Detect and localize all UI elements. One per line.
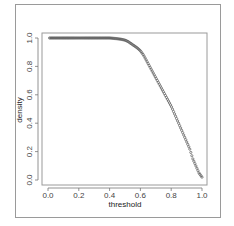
data-point	[190, 151, 192, 153]
data-point	[185, 139, 187, 141]
data-point	[187, 143, 189, 145]
x-axis: 0.00.20.40.60.81.0	[42, 188, 208, 200]
data-point	[188, 146, 190, 148]
x-tick-label: 0.8	[166, 191, 178, 200]
data-point	[183, 134, 185, 136]
data-point	[177, 120, 179, 122]
y-axis-label: density	[15, 97, 24, 122]
y-tick-label: 0.2	[25, 145, 34, 157]
data-point	[201, 176, 203, 178]
x-tick-label: 0.2	[73, 191, 85, 200]
data-point	[191, 155, 193, 157]
y-tick-label: 1.0	[25, 32, 34, 44]
y-tick-label: 0.8	[25, 60, 34, 72]
data-point	[181, 129, 183, 131]
x-axis-label: threshold	[109, 200, 142, 209]
data-point	[180, 127, 182, 129]
y-tick-label: 0.4	[25, 117, 34, 129]
data-point	[173, 113, 175, 115]
data-point	[175, 117, 177, 119]
plot-area	[42, 33, 207, 185]
data-point	[171, 108, 173, 110]
data-point	[184, 136, 186, 138]
data-point	[179, 125, 181, 127]
data-point	[170, 106, 172, 108]
data-point	[195, 165, 197, 167]
x-tick-label: 0.0	[42, 191, 54, 200]
data-point	[172, 110, 174, 112]
data-point	[197, 170, 199, 172]
x-tick-label: 0.6	[135, 191, 147, 200]
data-point	[194, 162, 196, 164]
data-points	[48, 37, 203, 178]
x-tick-label: 0.4	[104, 191, 116, 200]
data-point	[174, 115, 176, 117]
data-point	[186, 141, 188, 143]
data-point	[178, 122, 180, 124]
data-point	[192, 158, 194, 160]
density-threshold-chart: 0.00.20.40.60.81.0 0.00.20.40.60.81.0 th…	[0, 0, 234, 226]
data-point	[189, 148, 191, 150]
data-point	[196, 167, 198, 169]
y-axis: 0.00.20.40.60.81.0	[25, 32, 38, 186]
data-point	[193, 160, 195, 162]
x-tick-label: 1.0	[196, 191, 208, 200]
y-tick-label: 0.0	[25, 174, 34, 186]
y-tick-label: 0.6	[25, 89, 34, 101]
data-point	[182, 132, 184, 134]
